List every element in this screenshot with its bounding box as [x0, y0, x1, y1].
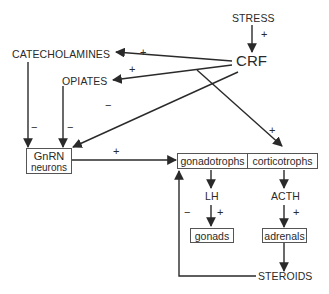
node-lh: LH — [205, 191, 219, 202]
node-adrenals: adrenals — [262, 228, 307, 243]
sign-opiates-gnrn: − — [67, 122, 73, 133]
sign-crf-gnrn: − — [105, 100, 111, 111]
node-gonadotrophs: gonadotrophs — [177, 153, 248, 169]
node-gnrn-neurons: GnRN neurons — [26, 148, 72, 174]
sign-stress-crf: + — [261, 29, 267, 40]
arrow-steroids-gonadotrophs — [179, 171, 256, 276]
gnrn-label: GnRN — [27, 151, 71, 162]
sign-crf-catecholamines: + — [140, 47, 146, 58]
sign-lh-gonads: + — [217, 207, 223, 218]
sign-crf-opiates: + — [129, 64, 135, 75]
neurons-label: neurons — [27, 163, 71, 173]
sign-gnrn-gonadotrophs: + — [113, 146, 119, 157]
node-gonads: gonads — [190, 228, 234, 243]
node-opiates: OPIATES — [62, 76, 107, 87]
arrow-crf-catecholamines — [116, 52, 232, 61]
node-stress: STRESS — [232, 13, 275, 24]
node-crf: CRF — [236, 53, 267, 68]
node-corticotrophs: corticotrophs — [247, 153, 318, 169]
sign-crf-corticotrophs: + — [269, 125, 275, 136]
node-catecholamines: CATECHOLAMINES — [12, 49, 110, 60]
sign-steroids-gonadotrophs: − — [184, 207, 190, 218]
diagram-arrows — [0, 0, 329, 294]
node-steroids: STEROIDS — [258, 271, 312, 282]
sign-acth-adrenals: + — [293, 207, 299, 218]
node-acth: ACTH — [271, 191, 300, 202]
sign-catecholamines-gnrn: − — [31, 122, 37, 133]
